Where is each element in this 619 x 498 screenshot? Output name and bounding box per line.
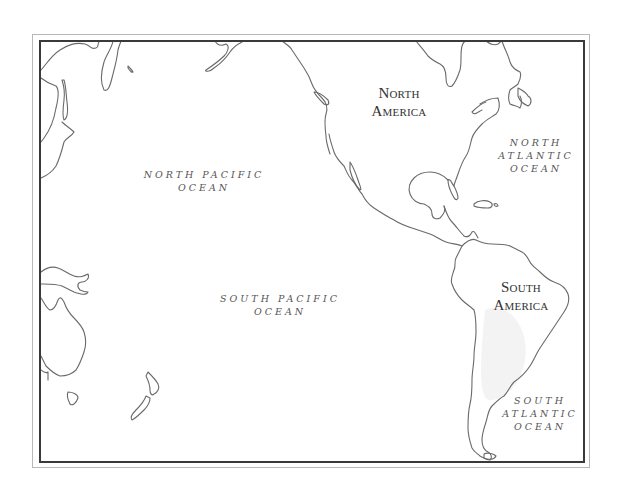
label-south-atlantic-line3: OCEAN (500, 420, 580, 433)
label-north-atlantic-line2: ATLANTIC (496, 149, 576, 162)
label-south-america-line2: America (486, 296, 556, 314)
label-south-pacific-line1: SOUTH PACIFIC (212, 292, 348, 305)
label-north-america-line1: North (364, 84, 434, 102)
label-south-pacific-ocean: SOUTH PACIFIC OCEAN (212, 292, 348, 318)
label-north-pacific-line2: OCEAN (136, 181, 272, 194)
label-north-atlantic-ocean: NORTH ATLANTIC OCEAN (496, 136, 576, 175)
map: North America South America NORTH PACIFI… (0, 0, 619, 498)
label-north-atlantic-line3: OCEAN (496, 162, 576, 175)
label-south-america-line1: South (486, 278, 556, 296)
label-north-pacific-ocean: NORTH PACIFIC OCEAN (136, 168, 272, 194)
label-north-atlantic-line1: NORTH (496, 136, 576, 149)
label-north-pacific-line1: NORTH PACIFIC (136, 168, 272, 181)
label-north-america-line2: America (364, 102, 434, 120)
label-south-atlantic-line2: ATLANTIC (500, 407, 580, 420)
label-south-america: South America (486, 278, 556, 314)
label-south-pacific-line2: OCEAN (212, 305, 348, 318)
label-north-america: North America (364, 84, 434, 120)
label-south-atlantic-line1: SOUTH (500, 394, 580, 407)
label-south-atlantic-ocean: SOUTH ATLANTIC OCEAN (500, 394, 580, 433)
